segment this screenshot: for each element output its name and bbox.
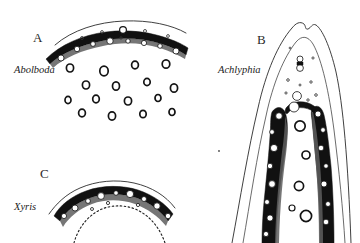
figure-background	[0, 0, 360, 243]
panel-b-lumen	[270, 130, 275, 135]
panel-b-lumen	[315, 111, 321, 117]
panel-b-vascular-bundle	[294, 181, 303, 190]
panel-a-vascular-bundle	[162, 60, 170, 68]
panel-a-vascular-bundle	[108, 112, 115, 120]
panel-a-lumen	[141, 40, 146, 45]
panel-a-lumen	[91, 42, 96, 47]
panel-b-lumen	[321, 181, 327, 187]
panel-c-lumen	[114, 191, 119, 196]
panel-a-vascular-bundle	[66, 64, 73, 72]
panel-a-vascular-bundle	[93, 95, 100, 103]
panel-a-lumen	[158, 44, 163, 49]
panel-b-letter: B	[257, 32, 266, 47]
panel-c-lumen	[142, 197, 147, 202]
panel-b-lumen	[324, 164, 329, 169]
panel-a-vascular-bundle	[144, 78, 150, 85]
panel-c-lumen	[154, 203, 160, 209]
panel-b-lumen	[323, 219, 329, 225]
panel-b-lumen	[326, 202, 331, 207]
panel-a-vascular-bundle	[113, 82, 120, 90]
panel-a-lumen	[58, 55, 64, 61]
panel-c-lumen	[165, 213, 170, 218]
panel-a-vascular-bundle	[82, 81, 89, 89]
panel-b-figure-eight-upper	[297, 56, 304, 71]
panel-c-lumen	[136, 203, 139, 206]
panel-b-lumen	[267, 215, 273, 221]
panel-b-lumen	[265, 200, 270, 205]
panel-b-vascular-bundle	[300, 210, 311, 221]
panel-a-lumen	[126, 39, 130, 43]
panel-c-lumen	[72, 205, 78, 211]
panel-b-vascular-bundle	[295, 121, 305, 131]
panel-a-vascular-bundle	[155, 95, 161, 102]
panel-b-taxon-label: Achlyphia	[217, 64, 261, 75]
panel-a-lumen	[173, 48, 179, 54]
panel-c-lumen	[98, 193, 105, 200]
panel-a-lumen	[107, 38, 113, 44]
panel-b-lumen	[270, 144, 277, 151]
panel-c-lumen	[126, 190, 133, 197]
panel-a-vascular-bundle	[170, 84, 177, 92]
panel-b-lumen	[269, 181, 276, 188]
figure-canvas: A Abolboda	[0, 0, 360, 243]
panel-c-lumen	[91, 208, 94, 211]
stray-ink-speck	[218, 150, 220, 152]
panel-b-lumen	[267, 163, 272, 168]
panel-b-lumen	[263, 231, 268, 236]
panel-a-vascular-bundle	[132, 61, 139, 69]
panel-a-marginal-bundle	[120, 27, 127, 34]
panel-a-vascular-bundle	[169, 109, 175, 116]
panel-b-lumen	[321, 128, 326, 133]
panel-b-vascular-bundle	[302, 151, 310, 159]
panel-b-lumen	[318, 145, 324, 151]
panel-c-lumen	[106, 201, 109, 204]
panel-a-vascular-bundle	[79, 109, 86, 117]
panel-c-taxon-label: Xyris	[13, 201, 36, 212]
panel-a-taxon-label: Abolboda	[13, 64, 55, 75]
panel-a-vascular-bundle	[124, 97, 131, 105]
panel-a-vascular-bundle	[65, 96, 71, 103]
panel-c-lumen	[86, 199, 91, 204]
panel-a-lumen	[74, 46, 79, 51]
panel-c-lumen	[61, 213, 66, 218]
anatomy-figure: A Abolboda	[0, 0, 360, 243]
panel-b-vascular-bundle	[289, 205, 295, 211]
panel-c-letter: C	[40, 166, 49, 181]
panel-a-letter: A	[33, 30, 43, 45]
panel-a-vascular-bundle	[100, 66, 108, 76]
panel-a-vascular-bundle	[140, 110, 146, 117]
panel-b-lumen	[276, 113, 283, 120]
